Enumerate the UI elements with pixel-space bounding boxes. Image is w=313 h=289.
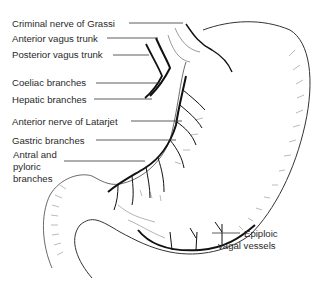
posterior-vagus-trunk bbox=[145, 44, 162, 98]
label-anterior-vagus-trunk: Anterior vagus trunk bbox=[12, 33, 98, 44]
label-epiploic-line1: Epiploic bbox=[244, 228, 278, 239]
hatching bbox=[51, 50, 304, 255]
label-antral-line3: branches bbox=[13, 173, 52, 184]
label-coeliac-branches: Coeliac branches bbox=[12, 77, 86, 88]
gastric-branches bbox=[114, 90, 205, 210]
anterior-vagus-trunk bbox=[150, 38, 170, 96]
label-epiploic-line2: vagal vessels bbox=[218, 240, 276, 251]
label-gastric-branches: Gastric branches bbox=[12, 135, 85, 146]
label-antral-line1: Antral and bbox=[13, 149, 57, 160]
criminal-nerve bbox=[186, 24, 232, 72]
esophagus bbox=[168, 28, 200, 62]
label-posterior-vagus-trunk: Posterior vagus trunk bbox=[12, 49, 103, 60]
label-latarjet: Anterior nerve of Latarjet bbox=[12, 116, 118, 127]
label-hepatic-branches: Hepatic branches bbox=[12, 94, 87, 105]
label-criminal-nerve: Criminal nerve of Grassi bbox=[12, 18, 115, 29]
lesser-curvature bbox=[43, 62, 186, 268]
label-antral-line2: pyloric bbox=[13, 161, 41, 172]
